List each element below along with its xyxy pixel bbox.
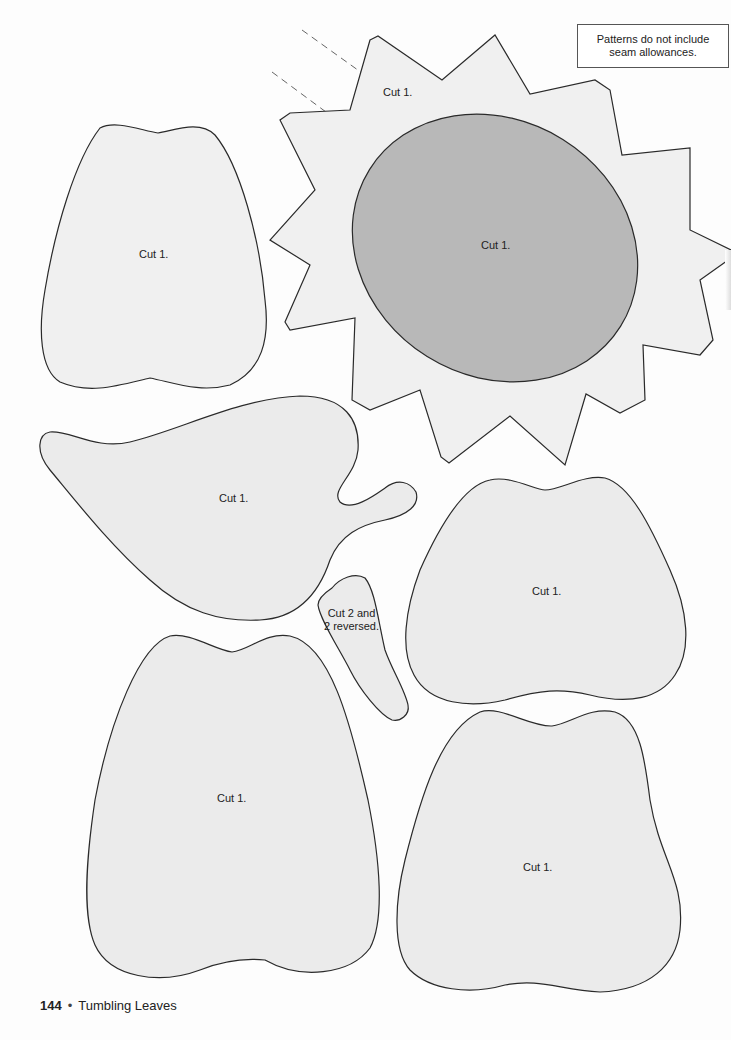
page-footer: 144•Tumbling Leaves: [40, 998, 177, 1013]
seam-allowance-note: Patterns do not include seam allowances.: [577, 24, 729, 68]
pattern-pieces-canvas: [0, 0, 731, 1040]
bullet-separator: •: [68, 998, 73, 1013]
note-line-2: seam allowances.: [578, 46, 728, 59]
note-line-1: Patterns do not include: [578, 33, 728, 46]
pear-bottom-left-piece: [87, 635, 380, 977]
small-leaf-label-line-2: 2 reversed.: [324, 620, 379, 633]
dashed-placement-line: [272, 72, 326, 112]
dashed-placement-line: [302, 30, 362, 73]
small-leaf-label-line-1: Cut 2 and: [324, 607, 379, 620]
sun-outer-label: Cut 1.: [383, 86, 412, 99]
pattern-page: Patterns do not include seam allowances.…: [0, 0, 731, 1040]
pear-bottom-left-label: Cut 1.: [217, 792, 246, 805]
book-title: Tumbling Leaves: [78, 998, 177, 1013]
pear-bottom-right-piece: [397, 711, 681, 992]
sun-center-label: Cut 1.: [481, 239, 510, 252]
pear-top-left-label: Cut 1.: [139, 248, 168, 261]
leaf-label: Cut 1.: [219, 492, 248, 505]
pear-mid-right-label: Cut 1.: [532, 585, 561, 598]
pear-bottom-right-label: Cut 1.: [523, 861, 552, 874]
small-leaf-label: Cut 2 and 2 reversed.: [324, 607, 379, 633]
page-number: 144: [40, 998, 62, 1013]
page-edge-shadow: [725, 250, 731, 310]
